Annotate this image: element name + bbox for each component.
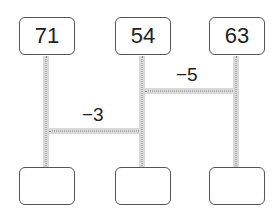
bottom-box-middle[interactable]: [115, 167, 171, 205]
lane-left: [43, 56, 49, 168]
rung-left-middle: [49, 128, 139, 134]
top-box-middle: 54: [115, 17, 171, 55]
bottom-box-left[interactable]: [19, 167, 75, 205]
lane-right: [233, 56, 239, 168]
rung-label-minus-5: −5: [176, 64, 198, 86]
top-box-left: 71: [19, 17, 75, 55]
lane-middle: [139, 56, 145, 168]
rung-label-minus-3: −3: [82, 104, 104, 126]
top-box-right: 63: [209, 17, 265, 55]
bottom-box-right[interactable]: [209, 167, 265, 205]
rung-middle-right: [145, 88, 233, 94]
